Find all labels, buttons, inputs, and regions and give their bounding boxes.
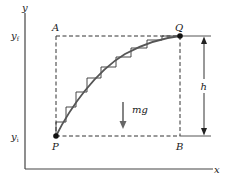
force-label-mg: mg xyxy=(132,104,148,115)
gravity-arrowhead xyxy=(120,121,127,129)
label-Q: Q xyxy=(175,22,183,33)
axes: y x yf yi xyxy=(10,2,220,175)
y-initial-subscript: i xyxy=(17,136,19,143)
gravity-force-arrow xyxy=(120,102,127,129)
y-final-label: yf xyxy=(10,30,20,42)
curved-path xyxy=(56,36,180,136)
staircase-path xyxy=(56,36,180,136)
label-B: B xyxy=(175,141,183,152)
y-initial-label: yi xyxy=(10,131,19,143)
label-A: A xyxy=(51,22,59,33)
work-gravity-diagram: y x yf yi A Q P B mg h xyxy=(0,0,229,179)
y-final-subscript: f xyxy=(17,35,20,42)
point-P xyxy=(53,133,59,139)
label-P: P xyxy=(51,141,59,152)
height-arrowhead-up xyxy=(201,37,207,45)
height-label-h: h xyxy=(201,81,207,92)
y-axis-label: y xyxy=(21,2,28,13)
point-Q xyxy=(177,33,183,39)
height-arrowhead-down xyxy=(201,128,207,136)
x-axis-label: x xyxy=(214,164,220,175)
dashed-rectangle xyxy=(56,36,180,136)
